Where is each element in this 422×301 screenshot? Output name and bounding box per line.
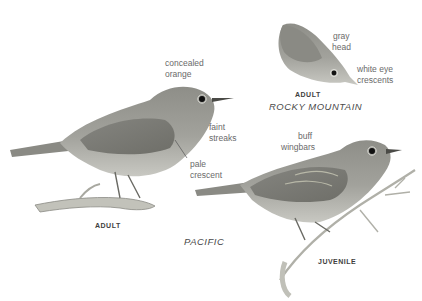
caption-juvenile: JUVENILE [318, 258, 356, 265]
caption-adult-pacific: ADULT [95, 222, 121, 229]
label-buff: buff [298, 131, 312, 142]
caption-adult-rocky-mountain: ADULT [295, 91, 321, 98]
label-wingbars: wingbars [281, 142, 315, 153]
label-faint: faint [209, 122, 225, 133]
label-concealed: concealed [165, 58, 204, 69]
label-gray: gray [333, 31, 350, 42]
label-crescent: crescent [190, 170, 222, 181]
label-pale: pale [190, 159, 206, 170]
label-streaks: streaks [209, 133, 236, 144]
illustration-canvas [0, 0, 422, 301]
bird-pacific-juvenile [195, 140, 415, 296]
region-pacific: PACIFIC [184, 236, 224, 247]
branch-left [35, 197, 155, 212]
label-crescents: crescents [357, 75, 393, 86]
region-rocky-mountain: ROCKY MOUNTAIN [269, 101, 362, 112]
label-white-eye: white eye [357, 64, 393, 75]
label-head: head [332, 42, 351, 53]
label-orange: orange [165, 69, 191, 80]
